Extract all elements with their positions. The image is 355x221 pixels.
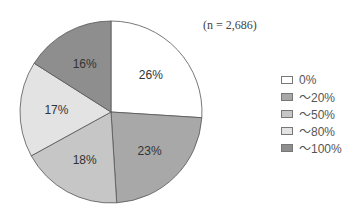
legend-item: ～80% [281, 122, 342, 139]
legend-label: ～50% [299, 105, 335, 122]
legend-label: ～20% [299, 88, 335, 105]
legend-label: ～80% [299, 122, 335, 139]
legend-label: 0% [299, 73, 316, 87]
legend-item: ～100% [281, 139, 342, 156]
slice-label: 17% [44, 103, 68, 117]
legend-item: 0% [281, 71, 342, 88]
legend-swatch [281, 127, 293, 135]
slice-label: 23% [138, 144, 162, 158]
legend: 0% ～20% ～50% ～80% ～100% [281, 71, 342, 156]
legend-label: ～100% [299, 139, 342, 156]
legend-swatch [281, 93, 293, 101]
slice-label: 16% [73, 57, 97, 71]
legend-item: ～50% [281, 105, 342, 122]
slice-label: 18% [73, 153, 97, 167]
legend-swatch [281, 144, 293, 152]
legend-swatch [281, 76, 293, 84]
legend-item: ～20% [281, 88, 342, 105]
slice-label: 26% [139, 68, 163, 82]
sample-size-note: (n = 2,686) [203, 18, 257, 33]
legend-swatch [281, 110, 293, 118]
